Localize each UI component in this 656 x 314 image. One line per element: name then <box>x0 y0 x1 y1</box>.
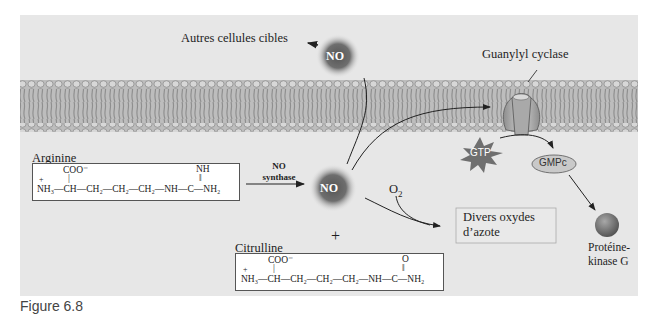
protein-kinase-g-icon <box>595 213 619 237</box>
label-no-synthase-2: synthase <box>254 172 304 182</box>
label-plus: + <box>331 227 340 245</box>
label-no-center: NO <box>320 181 338 196</box>
label-gtp: GTP <box>470 147 491 158</box>
arginine-formula-box: COO⁻ NH | ‖ + NH₃—CH—CH₂—CH₂—CH₂—NH—C—NH… <box>32 163 240 201</box>
arrow-o2 <box>396 196 430 225</box>
arginine-charge: + <box>39 175 44 184</box>
citrulline-bond-v: | <box>273 263 275 273</box>
arrow-no-to-oxides <box>365 198 440 226</box>
label-kinase-1: Protéine- <box>588 241 630 253</box>
label-no-synthase-1: NO <box>254 161 304 171</box>
label-oxides-1: Divers oxydes <box>463 210 535 225</box>
label-kinase-2: kinase G <box>588 255 629 267</box>
cell-membrane <box>20 80 638 132</box>
label-no-top: NO <box>326 49 344 64</box>
figure-caption: Figure 6.8 <box>20 298 83 314</box>
citrulline-charge: + <box>243 265 248 274</box>
citrulline-chain: NH₃—CH—CH₂—CH₂—CH₂—NH—C—NH₂ <box>241 274 424 284</box>
label-guanylyl-cyclase: Guanylyl cyclase <box>482 47 568 62</box>
label-oxides-2: d’azote <box>463 225 500 240</box>
arrow-cyclase-to-gmpc <box>500 135 553 148</box>
label-gmpc: GMPc <box>539 157 567 168</box>
arginine-coo: COO⁻ <box>63 164 88 175</box>
label-other-cells: Autres cellules cibles <box>181 31 288 46</box>
arginine-chain: NH₃—CH—CH₂—CH₂—CH₂—NH—C—NH₂ <box>37 184 220 194</box>
arrow-gmpc-to-kinase <box>569 175 595 210</box>
citrulline-bond-double: ‖ <box>402 263 405 273</box>
arginine-bond-v: | <box>68 173 70 183</box>
label-o2: O2 <box>389 182 403 199</box>
arrow-to-other-cells <box>308 43 318 45</box>
citrulline-formula-box: COO⁻ O | ‖ + NH₃—CH—CH₂—CH₂—CH₂—NH—C—NH₂ <box>235 253 444 291</box>
arginine-bond-double: ‖ <box>199 173 202 183</box>
citrulline-coo: COO⁻ <box>268 254 293 265</box>
